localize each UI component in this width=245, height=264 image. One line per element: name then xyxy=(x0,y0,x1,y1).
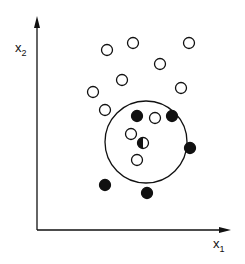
query-point xyxy=(138,138,149,149)
hollow-point-icon xyxy=(150,113,161,124)
hollow-point-icon xyxy=(184,38,195,49)
hollow-point-icon xyxy=(176,83,187,94)
x-axis xyxy=(37,227,231,233)
filled-point-icon xyxy=(142,188,153,199)
filled-point-icon xyxy=(185,143,196,154)
filled-point-icon xyxy=(100,180,111,191)
filled-point-icon xyxy=(132,111,143,122)
hollow-point-icon xyxy=(88,87,99,98)
x-axis-arrow-icon xyxy=(219,227,231,233)
y-axis-arrow-icon xyxy=(34,16,40,28)
hollow-point-icon xyxy=(102,45,113,56)
hollow-point-icon xyxy=(155,59,166,70)
x-axis-label: x1 xyxy=(213,236,225,254)
knn-diagram: x2 x1 xyxy=(0,0,245,264)
hollow-point-icon xyxy=(132,155,143,166)
filled-point-icon xyxy=(167,111,178,122)
hollow-point-icon xyxy=(117,75,128,86)
hollow-point-icon xyxy=(126,129,137,140)
hollow-point-icon xyxy=(128,38,139,49)
y-axis xyxy=(34,16,40,230)
y-axis-label: x2 xyxy=(15,40,27,58)
hollow-point-icon xyxy=(100,105,111,116)
class-b-points xyxy=(100,111,196,199)
